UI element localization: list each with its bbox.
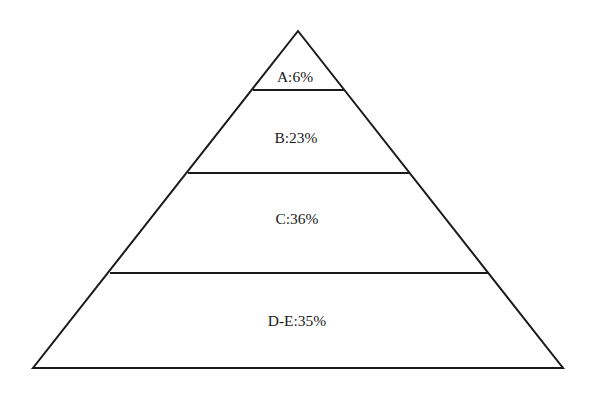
tier-label-de: D-E:35% [268, 313, 327, 329]
pyramid-diagram [0, 0, 592, 400]
tier-label-c: C:36% [275, 211, 318, 227]
tier-label-b: B:23% [274, 130, 317, 146]
tier-label-a: A:6% [277, 69, 313, 85]
